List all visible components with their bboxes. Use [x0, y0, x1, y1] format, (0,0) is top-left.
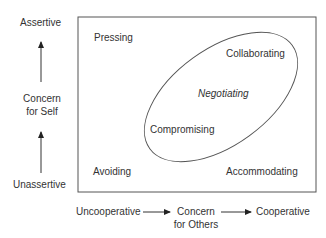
quadrant-avoiding: Avoiding — [93, 166, 131, 178]
x-axis-middle-label-1: Concern — [170, 206, 222, 218]
diagram-graphics — [0, 0, 326, 238]
x-axis-right-label: Cooperative — [256, 206, 310, 218]
y-axis-bottom-label: Unassertive — [13, 179, 66, 191]
x-axis-middle-label-2: for Others — [170, 219, 222, 231]
y-axis-middle-label-1: Concern — [16, 93, 68, 105]
quadrant-accommodating: Accommodating — [226, 166, 298, 178]
quadrant-negotiating: Negotiating — [198, 88, 249, 100]
y-axis-top-label: Assertive — [20, 17, 61, 29]
quadrant-compromising: Compromising — [150, 124, 214, 136]
x-axis-left-label: Uncooperative — [76, 206, 140, 218]
quadrant-collaborating: Collaborating — [226, 48, 285, 60]
quadrant-pressing: Pressing — [94, 32, 133, 44]
y-axis-middle-label-2: for Self — [16, 106, 68, 118]
